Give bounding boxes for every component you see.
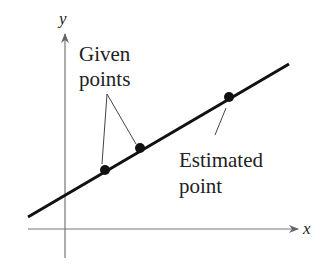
given-label-line2: points <box>79 67 130 91</box>
estimated-label-line1: Estimated <box>179 148 263 172</box>
given-point-1 <box>100 165 110 175</box>
given-label-line1: Given <box>79 42 131 66</box>
estimated-leader <box>215 108 226 135</box>
y-axis-label: y <box>57 9 67 28</box>
given-leader-1 <box>102 94 107 164</box>
linear-estimation-diagram: x y Given points Estimated point <box>0 0 334 277</box>
given-leader-2 <box>107 94 136 144</box>
x-axis-label: x <box>302 219 311 238</box>
estimated-point <box>224 92 234 102</box>
linear-line <box>28 64 289 217</box>
given-point-2 <box>135 143 145 153</box>
estimated-label-line2: point <box>179 174 222 198</box>
